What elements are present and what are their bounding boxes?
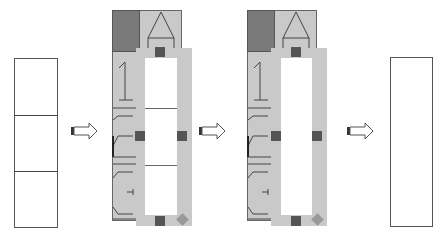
- selected-cells[interactable]: [145, 58, 177, 215]
- selection-handle-right[interactable]: [312, 131, 322, 141]
- cell-divider: [145, 165, 177, 166]
- selection-handle-left[interactable]: [135, 131, 145, 141]
- selection-handle-top[interactable]: [291, 47, 301, 57]
- cell-divider: [15, 115, 57, 116]
- header-corner-block: [112, 10, 140, 52]
- source-table: [14, 58, 58, 228]
- cell-divider: [145, 108, 177, 109]
- selection-handle-bottom[interactable]: [291, 216, 301, 226]
- selection-handle-right[interactable]: [177, 131, 187, 141]
- arrow-right-icon: [0, 0, 445, 243]
- cell-divider: [15, 171, 57, 172]
- column-header-glyph: [0, 0, 445, 243]
- result-table: [390, 57, 433, 227]
- column-header-glyph: [0, 0, 445, 243]
- selection-handle-top[interactable]: [155, 47, 165, 57]
- selection-handle-left[interactable]: [271, 131, 281, 141]
- merged-cell[interactable]: [281, 58, 312, 215]
- header-corner-block: [247, 10, 275, 52]
- selection-handle-bottom[interactable]: [155, 216, 165, 226]
